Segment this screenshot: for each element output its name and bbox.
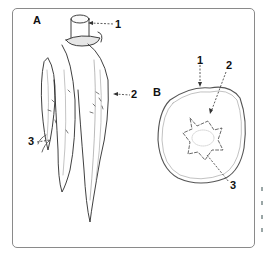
- arrowheads: [88, 21, 213, 114]
- panel-a-callout-2: 2: [131, 89, 137, 100]
- edge-mark: [261, 228, 263, 232]
- diagram-drawing: [0, 0, 265, 261]
- panel-b-cross-section: [158, 87, 245, 183]
- panel-label-b: B: [153, 87, 161, 98]
- edge-mark: [261, 187, 263, 191]
- panel-label-a: A: [33, 15, 41, 26]
- panel-a-callout-1: 1: [115, 19, 121, 30]
- panel-b-callout-2: 2: [226, 60, 232, 71]
- edge-mark: [261, 215, 263, 219]
- panel-b-callout-1: 1: [197, 55, 203, 66]
- panel-b-callout-3: 3: [230, 180, 236, 191]
- panel-a-root-drawing: [38, 15, 108, 222]
- panel-a-callout-3: 3: [28, 136, 34, 147]
- edge-mark: [261, 201, 263, 205]
